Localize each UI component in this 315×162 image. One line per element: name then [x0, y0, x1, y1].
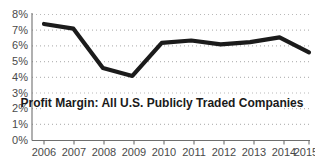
x-tick-label-2007: 2007 [62, 146, 86, 158]
y-tick-label-1: 1% [12, 118, 28, 130]
y-tick-label-4: 4% [12, 71, 28, 83]
x-tick-label-2014: 2014 [272, 146, 296, 158]
y-tick-label-6: 6% [12, 39, 28, 51]
x-tick-label-2012: 2012 [212, 146, 236, 158]
y-tick-label-0: 0% [12, 134, 28, 146]
x-axis-tick-labels: 2006 2007 2008 2009 2010 2011 2012 2013 … [32, 146, 315, 158]
y-tick-label-5: 5% [12, 55, 28, 67]
x-tick-label-2008: 2008 [92, 146, 116, 158]
x-tick-label-2010: 2010 [152, 146, 176, 158]
x-tick-label-2006: 2006 [32, 146, 56, 158]
chart-canvas: 8% 7% 6% 5% 4% 3% 2% 1% 0% Profit Margin… [0, 0, 315, 162]
chart-title: Profit Margin: All U.S. Publicly Traded … [21, 96, 304, 110]
x-axis [32, 141, 310, 145]
x-tick-label-2009: 2009 [122, 146, 146, 158]
x-tick-label-2011: 2011 [182, 146, 206, 158]
x-tick-label-2013: 2013 [242, 146, 266, 158]
profit-margin-chart: 8% 7% 6% 5% 4% 3% 2% 1% 0% Profit Margin… [0, 0, 315, 162]
y-tick-label-8: 8% [12, 8, 28, 20]
y-tick-label-7: 7% [12, 24, 28, 36]
profit-margin-line [44, 24, 309, 76]
x-tick-label-2015: 2015 [294, 146, 315, 158]
y-axis-tick-labels: 8% 7% 6% 5% 4% 3% 2% 1% 0% [12, 8, 28, 146]
